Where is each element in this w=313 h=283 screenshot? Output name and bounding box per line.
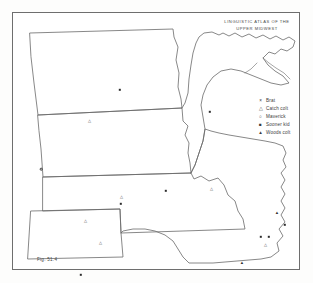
map-title: LINGUISTIC ATLAS OF THE UPPER MIDWEST [211, 19, 303, 32]
figure-caption: Fig. 51.4 [37, 257, 57, 262]
circle-open-icon: ○ [255, 113, 266, 121]
lake-superior-shore [263, 58, 290, 79]
legend-item-sooner-kid: ■ Sooner kid [255, 121, 307, 129]
state-outline-north-dakota [30, 29, 182, 115]
legend-label-catch-colt: Catch colt [266, 105, 288, 113]
legend-label-brat: Brat [266, 97, 275, 105]
state-outline-nebraska [43, 173, 245, 233]
legend-item-catch-colt: △ Catch colt [255, 105, 307, 113]
legend-item-maverick: ○ Maverick [255, 113, 307, 121]
map-frame: LINGUISTIC ATLAS OF THE UPPER MIDWEST × … [12, 12, 300, 270]
legend-item-brat: × Brat [255, 97, 307, 105]
map-marker [80, 274, 82, 276]
lake-superior-shore-2 [245, 63, 257, 73]
legend-label-sooner-kid: Sooner kid [266, 121, 290, 129]
figure-page: LINGUISTIC ATLAS OF THE UPPER MIDWEST × … [0, 0, 313, 283]
map-outline [13, 13, 301, 271]
cross-icon: × [255, 97, 266, 105]
state-outline-south-dakota [38, 108, 191, 177]
square-filled-icon: ■ [255, 121, 266, 129]
legend-label-maverick: Maverick [266, 113, 286, 121]
state-outline-iowa [121, 129, 286, 263]
triangle-open-icon: △ [255, 105, 266, 113]
map-title-line1: LINGUISTIC ATLAS OF THE [224, 19, 289, 24]
triangle-filled-icon: ▲ [255, 129, 266, 137]
legend-label-woods-colt: Woods colt [266, 129, 290, 137]
legend-item-woods-colt: ▲ Woods colt [255, 129, 307, 137]
map-title-line2: UPPER MIDWEST [236, 26, 278, 31]
map-legend: × Brat △ Catch colt ○ Maverick ■ Sooner … [255, 97, 307, 137]
state-outline-kansas [28, 209, 123, 259]
